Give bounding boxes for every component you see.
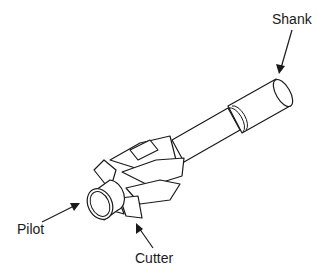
shank-label: Shank [272,11,313,27]
shank-arrow [276,30,292,74]
shank-body [228,77,297,133]
counterbore-diagram: Shank Pilot Cutter [0,0,328,280]
shaft [172,108,240,162]
cutter-label: Cutter [135,250,173,266]
pilot-body [82,180,124,224]
pilot-label: Pilot [17,221,44,237]
cutter-arrow [136,223,153,248]
pilot-arrow [42,203,80,222]
